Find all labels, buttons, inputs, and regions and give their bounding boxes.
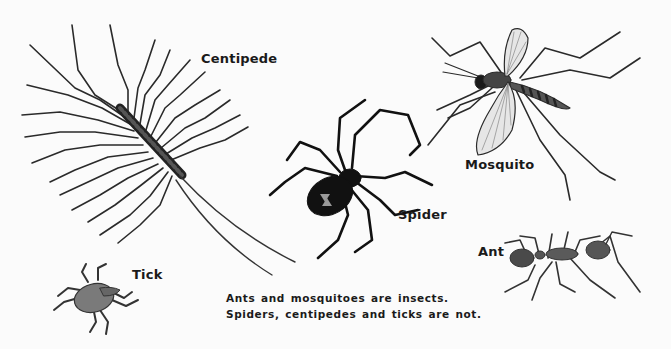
caption-line-2: Spiders, centipedes and ticks are not.: [226, 306, 482, 322]
spider-label: Spider: [398, 207, 447, 222]
tick-drawing: [54, 264, 138, 334]
spider-drawing: [270, 100, 432, 258]
tick-label: Tick: [132, 267, 162, 282]
mosquito-label: Mosquito: [465, 157, 534, 172]
caption: Ants and mosquitoes are insects. Spiders…: [226, 290, 482, 322]
centipede-label: Centipede: [201, 51, 277, 66]
ant-label: Ant: [478, 244, 504, 259]
ant-drawing: [505, 232, 640, 300]
illustration: Centipede Mosquito Spider Tick Ant Ants …: [0, 0, 671, 349]
caption-line-1: Ants and mosquitoes are insects.: [226, 290, 482, 306]
mosquito-drawing: [428, 29, 640, 200]
